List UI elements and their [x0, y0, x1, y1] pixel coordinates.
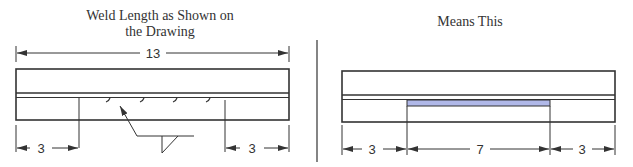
- weld-length-label: 7: [476, 142, 483, 157]
- weld-diagram: 13 3 3 3 7 3: [0, 0, 633, 167]
- left-panel: [16, 46, 289, 153]
- fillet-weld-symbol-icon: [120, 106, 194, 153]
- overall-dimension-label: 13: [146, 46, 160, 61]
- weld-hatch-marks: [106, 98, 210, 102]
- right-plate: [342, 71, 615, 122]
- right-offset-label: 3: [248, 141, 255, 156]
- left-plate: [16, 69, 289, 120]
- right-left-offset-label: 3: [368, 142, 375, 157]
- right-right-offset-label: 3: [578, 142, 585, 157]
- left-offset-label: 3: [37, 141, 44, 156]
- weld-bead: [407, 100, 550, 106]
